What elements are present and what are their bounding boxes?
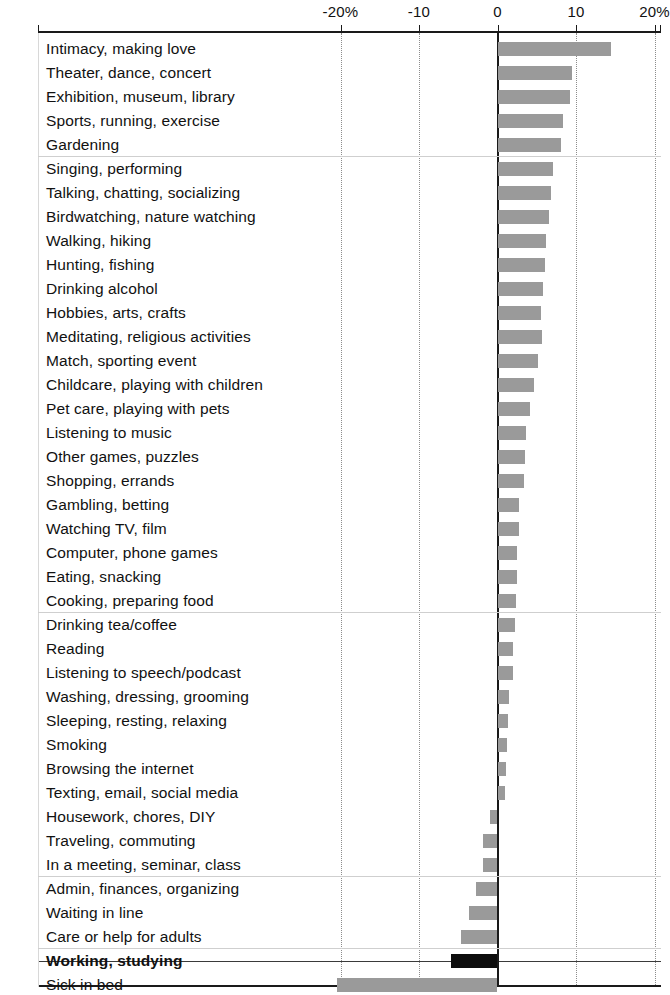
bar — [498, 690, 510, 704]
bar-row-label: Hunting, fishing — [46, 255, 154, 275]
bar-row: Hobbies, arts, crafts — [0, 301, 668, 325]
bar-row-label: Washing, dressing, grooming — [46, 687, 249, 707]
axis-tick-mark — [655, 25, 656, 32]
bar-row: Eating, snacking — [0, 565, 668, 589]
bar-row-label: Sleeping, resting, relaxing — [46, 711, 227, 731]
axis-right-end-cap — [660, 25, 661, 33]
bar-row-label: Hobbies, arts, crafts — [46, 303, 186, 323]
bar-row-label: Texting, email, social media — [46, 783, 238, 803]
bar-row-label: Sports, running, exercise — [46, 111, 220, 131]
bar — [490, 810, 498, 824]
bar — [451, 954, 497, 968]
bar — [461, 930, 497, 944]
bar — [498, 450, 525, 464]
bar-row: Cooking, preparing food — [0, 589, 668, 613]
bar-row-label: Smoking — [46, 735, 107, 755]
bar — [498, 306, 542, 320]
bar-row: Sick in bed — [0, 973, 668, 995]
bar-row: Waiting in line — [0, 901, 668, 925]
bar — [498, 642, 514, 656]
bar — [498, 186, 551, 200]
bar-row-label: Drinking alcohol — [46, 279, 158, 299]
bar — [498, 138, 562, 152]
bar-row: Reading — [0, 637, 668, 661]
bar-row: Exhibition, museum, library — [0, 85, 668, 109]
bar — [498, 378, 534, 392]
bar-row-label: Sick in bed — [46, 975, 123, 995]
bar — [498, 354, 538, 368]
bar — [498, 426, 526, 440]
axis-tick-label: 0 — [493, 4, 502, 20]
plot-area: Intimacy, making loveTheater, dance, con… — [0, 33, 668, 985]
bar-row: Sleeping, resting, relaxing — [0, 709, 668, 733]
row-separator — [38, 156, 661, 157]
bar-row: Sports, running, exercise — [0, 109, 668, 133]
bar-row-label: Admin, finances, organizing — [46, 879, 239, 899]
bar — [498, 42, 611, 56]
bar — [498, 282, 544, 296]
bar-row-label: Intimacy, making love — [46, 39, 196, 59]
bar — [498, 666, 514, 680]
bar-row-label: Theater, dance, concert — [46, 63, 211, 83]
bar-row: Smoking — [0, 733, 668, 757]
axis-tick-label: 20% — [639, 4, 670, 20]
bar-row: Talking, chatting, socializing — [0, 181, 668, 205]
bar-row: Gardening — [0, 133, 668, 157]
bar-row: Gambling, betting — [0, 493, 668, 517]
bar-row: Childcare, playing with children — [0, 373, 668, 397]
bar-row-label: Listening to music — [46, 423, 172, 443]
bar — [476, 882, 497, 896]
bar-row: In a meeting, seminar, class — [0, 853, 668, 877]
bar-row-label: Cooking, preparing food — [46, 591, 214, 611]
bar-row: Shopping, errands — [0, 469, 668, 493]
bar-row-label: Singing, performing — [46, 159, 182, 179]
bar-row-label: Working, studying — [46, 951, 183, 971]
bar-row-label: Other games, puzzles — [46, 447, 199, 467]
bar — [498, 594, 517, 608]
bar-row-label: Care or help for adults — [46, 927, 202, 947]
bar-row: Drinking alcohol — [0, 277, 668, 301]
row-separator — [38, 948, 661, 949]
bar — [498, 738, 507, 752]
bar-row-label: Housework, chores, DIY — [46, 807, 215, 827]
bar-row: Meditating, religious activities — [0, 325, 668, 349]
bar-row-label: Traveling, commuting — [46, 831, 196, 851]
bar-row-label: Computer, phone games — [46, 543, 218, 563]
axis-tick-label: -10 — [408, 4, 430, 20]
bar-row-label: In a meeting, seminar, class — [46, 855, 241, 875]
bar-row-label: Shopping, errands — [46, 471, 174, 491]
bar-row-label: Meditating, religious activities — [46, 327, 251, 347]
bar-row: Birdwatching, nature watching — [0, 205, 668, 229]
bar-row-label: Exhibition, museum, library — [46, 87, 235, 107]
bar-row: Pet care, playing with pets — [0, 397, 668, 421]
bar — [498, 402, 530, 416]
bar — [498, 522, 519, 536]
bar-row: Listening to speech/podcast — [0, 661, 668, 685]
bar-row-label: Talking, chatting, socializing — [46, 183, 240, 203]
bar-row: Browsing the internet — [0, 757, 668, 781]
axis-tick-label-row: -20%-1001020% — [0, 4, 668, 26]
bar-row: Singing, performing — [0, 157, 668, 181]
axis-tick-label: 10 — [567, 4, 584, 20]
row-separator — [38, 612, 661, 613]
bar — [498, 330, 543, 344]
bar-row: Watching TV, film — [0, 517, 668, 541]
bar — [483, 858, 498, 872]
bar-row: Traveling, commuting — [0, 829, 668, 853]
bar-row-label: Pet care, playing with pets — [46, 399, 230, 419]
bar-row: Walking, hiking — [0, 229, 668, 253]
bar — [498, 162, 554, 176]
bar — [498, 90, 570, 104]
bar — [498, 114, 564, 128]
bar-row-label: Drinking tea/coffee — [46, 615, 177, 635]
bar-row: Listening to music — [0, 421, 668, 445]
bar-row: Drinking tea/coffee — [0, 613, 668, 637]
bar-row-label: Waiting in line — [46, 903, 143, 923]
bar — [469, 906, 497, 920]
bar-row: Care or help for adults — [0, 925, 668, 949]
bar — [498, 234, 547, 248]
bar — [498, 546, 518, 560]
bar-row-label: Browsing the internet — [46, 759, 194, 779]
axis-left-end-cap — [38, 25, 39, 33]
